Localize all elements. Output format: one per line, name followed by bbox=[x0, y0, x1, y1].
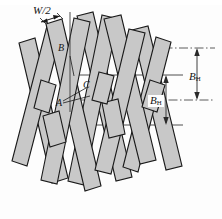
dim-upper-arrowhead-bottom bbox=[194, 92, 199, 100]
lattice-diagram bbox=[0, 0, 222, 219]
label-dimension-upper-base: B bbox=[189, 70, 196, 82]
label-dimension-lower-base: B bbox=[150, 94, 157, 106]
label-point-c: C bbox=[83, 80, 90, 90]
label-point-a: A bbox=[56, 98, 62, 108]
label-dimension-lower: BH bbox=[148, 95, 164, 107]
label-dimension-upper-subscript: H bbox=[196, 75, 201, 82]
figure-canvas: W/2 B C A BH BH bbox=[0, 0, 222, 219]
label-dimension-lower-subscript: H bbox=[157, 99, 162, 106]
label-strip-width: W/2 bbox=[33, 5, 51, 16]
w-half-arrowhead-left bbox=[41, 19, 48, 23]
label-dimension-upper: BH bbox=[189, 71, 201, 83]
dim-lower-arrowhead-top bbox=[163, 75, 168, 83]
dim-upper-arrowhead-top bbox=[194, 48, 199, 56]
w-half-arrowhead-right bbox=[53, 15, 60, 19]
label-point-b: B bbox=[58, 43, 64, 53]
